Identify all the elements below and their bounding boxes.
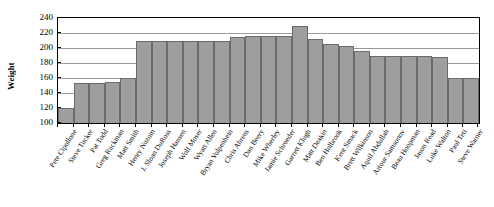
bar [120,78,136,123]
bar [417,56,433,124]
y-axis-tick-label: 220 [27,28,53,37]
bar-series [58,18,479,123]
y-axis-tick-mark [57,32,61,33]
weight-bar-chart: Weight 240220200180160140120100 Pete Cip… [0,0,494,207]
y-axis-tick-mark [57,77,61,78]
y-axis-tick-mark [57,47,61,48]
bar [323,44,339,123]
y-axis-tick-mark [57,17,61,18]
bar [354,51,370,123]
bar [448,78,464,123]
y-axis-tick-label: 100 [27,118,53,127]
x-axis-tick-labels: Pete CipolloneSteve TuckerPat ToddGreg R… [57,128,478,207]
bar [463,78,479,123]
bar [261,36,277,123]
y-axis-tick-labels: 240220200180160140120100 [22,17,53,122]
bar [105,82,121,123]
bar [214,41,230,124]
y-axis-tick-label: 120 [27,103,53,112]
y-axis-tick-mark [57,92,61,93]
y-axis-tick-label: 140 [27,88,53,97]
bar [58,108,74,123]
bar [74,83,90,123]
bar [385,56,401,124]
bar [401,56,417,124]
y-axis-tick-label: 180 [27,58,53,67]
bar [152,41,168,124]
bar [308,39,324,123]
y-axis-tick-label: 160 [27,73,53,82]
plot-area [57,17,480,124]
bar [183,41,199,124]
y-axis-tick-label: 240 [27,13,53,22]
y-axis-tick-mark [57,122,61,123]
bar [292,26,308,124]
y-axis-title: Weight [4,46,18,106]
bar [276,36,292,123]
y-axis-tick-mark [57,107,61,108]
bar [136,41,152,124]
bar [339,46,355,123]
y-axis-tick-mark [57,62,61,63]
bar [167,41,183,124]
bar [198,41,214,124]
bar [230,37,246,123]
bar [89,83,105,124]
y-axis-tick-label: 200 [27,43,53,52]
bar [370,56,386,124]
bar [432,57,448,123]
bar [245,36,261,123]
